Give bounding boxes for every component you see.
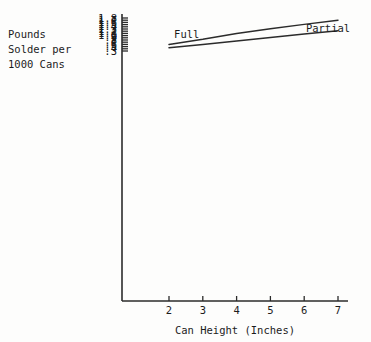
series-annotation: Partial (306, 22, 350, 34)
series-annotation: Full (174, 28, 199, 40)
x-tick-label: 5 (267, 304, 273, 316)
x-tick-label: 6 (301, 304, 307, 316)
x-tick-label: 3 (200, 304, 206, 316)
y-axis-title-line: Pounds (8, 28, 46, 40)
series-annotations: FullPartial (174, 22, 350, 40)
chart-container: PoundsSolder per1000 Cans .3.4.5.6.7.8.9… (0, 0, 371, 342)
y-axis-title-line: 1000 Cans (8, 58, 65, 70)
x-axis-title: Can Height (Inches) (175, 324, 295, 336)
y-axis-title: PoundsSolder per1000 Cans (8, 28, 71, 70)
x-tick-label: 4 (233, 304, 239, 316)
y-tick-label: 1.8 (98, 12, 117, 24)
x-tick-label: 2 (166, 304, 172, 316)
solder-line-chart: PoundsSolder per1000 Cans .3.4.5.6.7.8.9… (0, 0, 371, 342)
y-axis-title-line: Solder per (8, 43, 71, 55)
x-tick-label: 7 (335, 304, 341, 316)
x-axis-ticks: 234567 (166, 296, 341, 316)
y-axis-ticks: .3.4.5.6.7.8.91.01.11.21.31.41.51.61.71.… (98, 12, 128, 57)
